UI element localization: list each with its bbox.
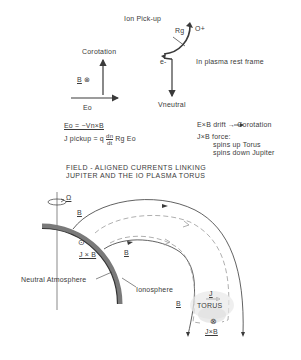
j-label: J — [209, 290, 213, 298]
force-line-2: spins up Torus — [213, 141, 261, 149]
omega-label: Ω — [66, 194, 71, 202]
jxb-bottom-label: J×B — [205, 328, 218, 336]
force-label: J×B force: — [197, 133, 231, 141]
into-page-symbol: ⊗ — [210, 318, 217, 326]
rotation-axis — [48, 192, 66, 310]
eo-label: Eo — [83, 104, 92, 112]
b-bottom-label: B — [176, 300, 181, 308]
bottom-title-2: JUPITER AND THE IO PLASMA TORUS — [66, 172, 205, 180]
torus-label: TORUS — [197, 302, 222, 310]
ionosphere-label: Ionosphere — [136, 286, 173, 294]
jxb-label: J × B — [79, 251, 96, 259]
ion-pickup-title: Ion Pick-up — [124, 15, 161, 23]
bottom-title-1: FIELD - ALIGNED CURRENTS LINKING — [66, 164, 206, 172]
out-of-page-symbol: ⊙ — [78, 239, 85, 247]
electron-label: e- — [160, 58, 167, 66]
drift-label: E×B drift → Corotation — [197, 121, 272, 129]
b-outer-label: B — [77, 209, 82, 217]
b-into-page-label: B ⊗ — [77, 76, 90, 84]
equation-eo: Eo = −Vn×B — [64, 122, 104, 130]
equation-j-pickup: J pickup = q dn dt Rg Eo — [64, 133, 136, 146]
rg-label: Rg — [175, 27, 184, 35]
ion-label: O+ — [195, 25, 205, 33]
b-inner-label: B — [124, 249, 129, 257]
frame-label: In plasma rest frame — [196, 58, 264, 66]
force-line-3: spins down Jupiter — [213, 149, 275, 157]
vneutral-label: Vneutral — [158, 101, 186, 109]
diagram-canvas — [0, 0, 301, 360]
corotation-label: Corotation — [82, 48, 116, 56]
neutral-atmosphere-label: Neutral Atmosphere — [21, 276, 86, 284]
